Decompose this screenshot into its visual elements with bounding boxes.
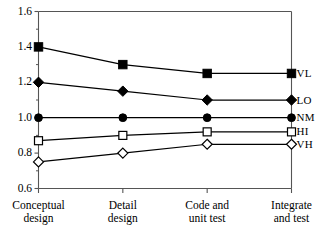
legend-label-hi: HI [297, 126, 309, 137]
x-axis-category-label: Detaildesign [80, 199, 166, 225]
data-point-marker [203, 69, 211, 77]
data-point-marker [203, 128, 211, 136]
data-point-marker [288, 114, 296, 122]
y-axis-tick-label: 1.4 [0, 41, 32, 53]
data-point-marker [35, 137, 43, 145]
series-line-hi [39, 132, 292, 141]
data-point-marker [33, 77, 43, 87]
y-axis-tick-label: 1.0 [0, 112, 32, 124]
x-axis-category-label: Conceptualdesign [0, 199, 82, 225]
data-point-marker [119, 60, 127, 68]
data-point-marker [34, 43, 42, 51]
legend-label-nm: NM [297, 112, 315, 123]
x-axis-category-label-line: Conceptual [0, 199, 82, 212]
x-axis-category-label-line: and test [249, 212, 329, 225]
legend-label-vl: VL [297, 68, 312, 79]
series-line-lo [39, 82, 292, 100]
data-point-marker [35, 114, 43, 122]
y-axis-tick-label: 1.6 [0, 6, 32, 18]
x-axis-category-label: Code andunit test [164, 199, 250, 225]
legend-label-vh: VH [297, 139, 313, 150]
series-line-vh [39, 144, 292, 162]
x-axis-category-label-line: Code and [164, 199, 250, 212]
y-axis-tick-label: 0.6 [0, 183, 32, 195]
data-point-marker [202, 139, 212, 149]
data-point-marker [118, 86, 128, 96]
y-axis-tick-label: 1.2 [0, 76, 32, 88]
x-axis-category-label-line: Integrate [249, 199, 329, 212]
data-point-marker [287, 69, 295, 77]
series-line-vl [39, 47, 292, 74]
data-point-marker [202, 95, 212, 105]
data-point-marker [286, 95, 296, 105]
data-point-marker [203, 114, 211, 122]
data-point-marker [288, 128, 296, 136]
line-chart: 1.61.41.21.00.80.6VLLONMHIVHConceptualde… [0, 0, 329, 236]
y-axis-tick-label: 0.8 [0, 147, 32, 159]
x-axis-category-label-line: design [0, 212, 82, 225]
data-point-marker [118, 148, 128, 158]
legend-label-lo: LO [297, 95, 312, 106]
x-axis-category-label: Integrateand test [249, 199, 329, 225]
data-point-marker [119, 131, 127, 139]
x-axis-category-label-line: unit test [164, 212, 250, 225]
data-point-marker [287, 139, 297, 149]
data-point-marker [34, 157, 44, 167]
x-axis-category-label-line: Detail [80, 199, 166, 212]
data-point-marker [119, 114, 127, 122]
x-axis-category-label-line: design [80, 212, 166, 225]
